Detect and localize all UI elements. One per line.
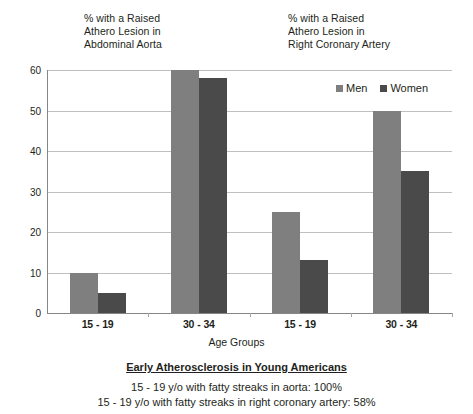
caption-line-aorta: 15 - 19 y/o with fatty streaks in aorta:…: [0, 380, 473, 395]
y-tick-label: 50: [15, 105, 41, 116]
x-axis-title: Age Groups: [0, 336, 473, 348]
x-category-label: 30 - 34: [149, 318, 249, 330]
chart-caption: Early Atherosclerosis in Young Americans…: [0, 361, 473, 410]
bar-men-0: [70, 273, 98, 314]
plot-area: [47, 70, 452, 313]
bar-men-3: [373, 111, 401, 314]
bar-men-2: [272, 212, 300, 313]
x-tick-mark: [250, 313, 251, 317]
x-category-label: 15 - 19: [250, 318, 350, 330]
bar-women-1: [199, 78, 227, 313]
x-tick-mark: [452, 313, 453, 317]
y-axis-tick-labels: 0102030405060: [11, 70, 41, 313]
caption-line-coronary: 15 - 19 y/o with fatty streaks in right …: [0, 395, 473, 410]
bar-women-3: [401, 171, 429, 313]
y-tick-label: 0: [15, 308, 41, 319]
y-tick-label: 10: [15, 267, 41, 278]
caption-title: Early Atherosclerosis in Young Americans: [0, 361, 473, 373]
bar-men-1: [171, 70, 199, 313]
chart-figure: % with a Raised Athero Lesion in Abdomin…: [0, 0, 473, 414]
x-category-label: 30 - 34: [351, 318, 451, 330]
x-tick-mark: [351, 313, 352, 317]
annotation-abdominal-aorta: % with a Raised Athero Lesion in Abdomin…: [84, 12, 234, 52]
annotation-right-coronary-artery: % with a Raised Athero Lesion in Right C…: [288, 12, 458, 52]
y-axis-line: [47, 70, 48, 314]
x-tick-mark: [148, 313, 149, 317]
y-tick-label: 40: [15, 146, 41, 157]
bar-women-2: [300, 260, 328, 313]
y-tick-label: 30: [15, 186, 41, 197]
x-category-label: 15 - 19: [48, 318, 148, 330]
y-tick-label: 60: [15, 65, 41, 76]
bar-women-0: [98, 293, 126, 313]
y-tick-label: 20: [15, 227, 41, 238]
gridline: [47, 70, 452, 71]
